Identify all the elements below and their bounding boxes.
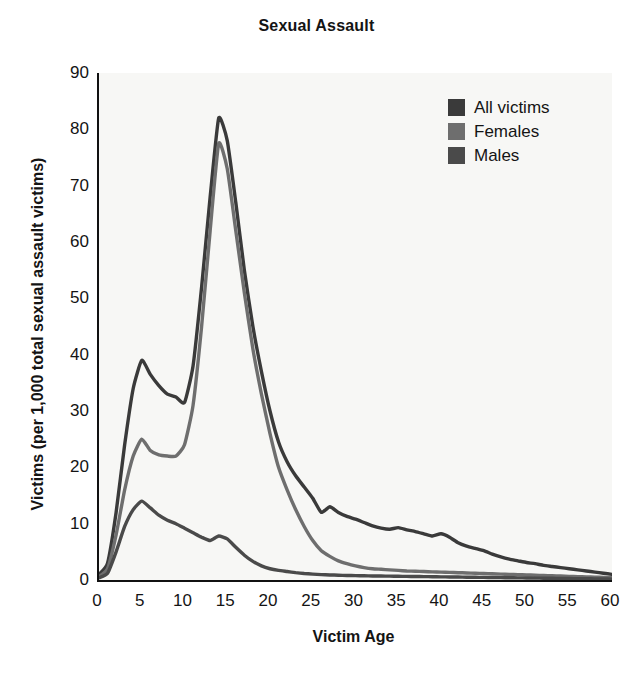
- y-tick-label: 90: [29, 64, 89, 81]
- y-tick-label: 50: [29, 289, 89, 306]
- chart-figure: Sexual Assault Victims (per 1,000 total …: [0, 0, 633, 676]
- y-tick-label: 30: [29, 402, 89, 419]
- y-tick-label: 20: [29, 458, 89, 475]
- legend-item: Females: [448, 120, 608, 143]
- y-tick-label: 60: [29, 233, 89, 250]
- legend-item: All victims: [448, 96, 608, 119]
- legend-swatch-icon: [448, 147, 465, 164]
- x-axis-label: Victim Age: [97, 628, 610, 646]
- y-axis-ticks: 0102030405060708090: [27, 0, 89, 676]
- y-tick-label: 80: [29, 120, 89, 137]
- legend-swatch-icon: [448, 99, 465, 116]
- chart-title: Sexual Assault: [0, 17, 633, 35]
- y-tick-label: 70: [29, 177, 89, 194]
- legend-item: Males: [448, 144, 608, 167]
- x-tick-label: 60: [580, 592, 633, 609]
- series-line: [99, 143, 612, 578]
- legend-swatch-icon: [448, 123, 465, 140]
- chart-legend: All victimsFemalesMales: [448, 96, 608, 168]
- y-tick-label: 0: [29, 571, 89, 588]
- y-tick-label: 40: [29, 346, 89, 363]
- x-axis-ticks: 051015202530354045505560: [97, 592, 633, 618]
- legend-label: Females: [474, 122, 539, 142]
- legend-label: All victims: [474, 98, 550, 118]
- y-tick-label: 10: [29, 515, 89, 532]
- legend-label: Males: [474, 146, 519, 166]
- series-line: [99, 117, 612, 574]
